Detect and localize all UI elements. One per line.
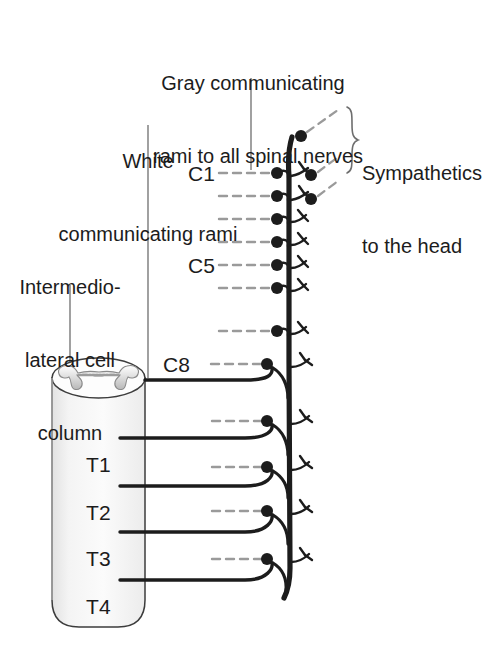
twig xyxy=(291,353,312,367)
sympathetic-ganglion xyxy=(271,282,283,294)
sympathetics-head-line1: Sympathetics xyxy=(362,161,487,185)
level-label-t2: T2 xyxy=(86,500,111,526)
twig xyxy=(291,233,308,245)
level-label-c1: C1 xyxy=(188,161,215,187)
ilcc-label-line2: lateral cell xyxy=(5,348,135,372)
level-label-t3: T3 xyxy=(86,546,111,572)
interganglionic-curves xyxy=(273,368,288,592)
twig xyxy=(291,410,312,424)
ilcc-label-line3: column xyxy=(5,421,135,445)
sympathetics-head-line2: to the head xyxy=(362,234,487,258)
intermediolateral-cell-column-label: Intermedio- lateral cell column xyxy=(5,226,135,494)
level-label-t4: T4 xyxy=(86,594,111,620)
sympathetic-ganglion xyxy=(271,259,283,271)
twig xyxy=(291,548,312,562)
sympathetics-to-head-label: Sympathetics to the head xyxy=(362,112,487,307)
twig xyxy=(291,322,308,334)
sympathetic-ganglion xyxy=(271,236,283,248)
twig xyxy=(291,456,312,470)
twig xyxy=(291,500,312,514)
chain-ganglia xyxy=(261,167,283,565)
sympathetic-ganglion xyxy=(271,325,283,337)
level-label-c5: C5 xyxy=(188,253,215,279)
trunk-nerve-twigs xyxy=(291,162,312,562)
level-label-t1: T1 xyxy=(86,452,111,478)
twig xyxy=(291,256,308,268)
twig xyxy=(291,279,308,291)
level-label-c8: C8 xyxy=(163,352,190,378)
ilcc-label-line1: Intermedio- xyxy=(5,275,135,299)
gray-rami-label-line1: Gray communicating xyxy=(153,71,353,95)
sympathetic-chain-diagram: Gray communicating rami to all spinal ne… xyxy=(0,0,487,653)
